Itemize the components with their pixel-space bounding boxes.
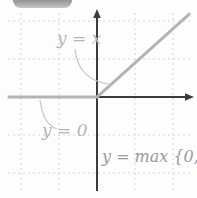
function-line-max-0-x [8, 13, 190, 97]
y-axis-arrow-icon [93, 9, 101, 18]
label-y-equals-x: y = x [57, 28, 101, 48]
figure-canvas: y = x y = 0 y = max {0, x} [0, 0, 197, 198]
label-y-equals-zero: y = 0 [42, 120, 87, 140]
leader-curve-y-equals-x [75, 49, 110, 85]
x-axis-arrow-icon [185, 93, 194, 101]
label-y-equals-max: y = max {0, x} [102, 147, 197, 166]
